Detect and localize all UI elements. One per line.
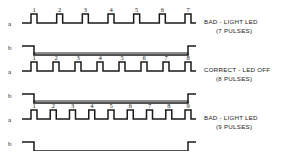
row-caption-pulse-count: (8 PULSES)	[216, 75, 252, 82]
pulse-number-label: 3	[76, 54, 79, 61]
pulse-number-label: 3	[84, 6, 87, 13]
pulse-number-label: 3	[71, 102, 74, 109]
row-caption-pulse-count: (7 PULSES)	[216, 27, 252, 34]
waveform-row: ab12345678CORRECT - LED OFF(8 PULSES)	[8, 54, 270, 104]
signal-b-trace	[22, 46, 196, 55]
pulse-number-label: 6	[161, 6, 165, 13]
pulse-number-label: 2	[52, 102, 55, 109]
signal-a-trace	[22, 110, 196, 119]
pulse-number-label: 5	[135, 6, 138, 13]
pulse-number-label: 8	[167, 102, 170, 109]
row-caption-primary: CORRECT - LED OFF	[204, 66, 270, 73]
timing-diagram: ab1234567BAD - LIGHT LED(7 PULSES)ab1234…	[0, 0, 290, 151]
pulse-number-label: 2	[54, 54, 57, 61]
pulse-number-label: 5	[109, 102, 112, 109]
signal-b-label: b	[8, 92, 12, 100]
signal-a-trace	[22, 14, 196, 23]
pulse-number-label: 9	[186, 102, 189, 109]
signal-b-trace	[22, 142, 196, 151]
waveform-row: ab1234567BAD - LIGHT LED(7 PULSES)	[8, 6, 258, 56]
pulse-number-label: 8	[186, 54, 189, 61]
pulse-number-label: 1	[32, 102, 35, 109]
signal-b-label: b	[8, 140, 12, 148]
pulse-number-label: 5	[120, 54, 123, 61]
signal-b-label: b	[8, 44, 12, 52]
row-caption-primary: BAD - LIGHT LED	[204, 114, 258, 121]
row-caption-pulse-count: (9 PULSES)	[216, 123, 252, 130]
waveform-row: ab123456789BAD - LIGHT LED(9 PULSES)	[8, 102, 258, 152]
row-caption-primary: BAD - LIGHT LED	[204, 18, 258, 25]
pulse-number-label: 4	[109, 6, 113, 13]
signal-a-label: a	[8, 68, 12, 76]
signal-a-trace	[22, 62, 196, 71]
signal-a-label: a	[8, 20, 12, 28]
pulse-number-label: 2	[58, 6, 61, 13]
pulse-number-label: 1	[32, 6, 35, 13]
waveform-canvas: ab1234567BAD - LIGHT LED(7 PULSES)ab1234…	[0, 0, 290, 151]
signal-a-label: a	[8, 116, 12, 124]
pulse-number-label: 7	[186, 6, 190, 13]
pulse-number-label: 1	[32, 54, 35, 61]
